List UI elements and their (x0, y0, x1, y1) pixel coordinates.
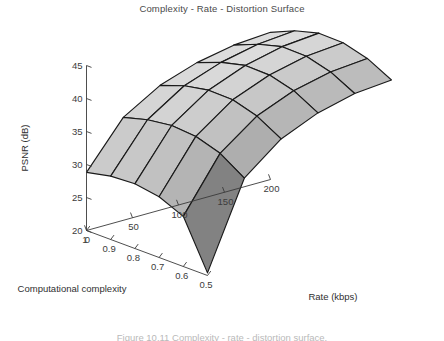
complexity-tick-mark (111, 235, 114, 239)
psnr-tick-label: 30 (72, 159, 83, 170)
psnr-axis-title: PSNR (dB) (19, 125, 30, 172)
complexity-tick-mark (159, 253, 162, 257)
complexity-tick-label: 0.5 (199, 279, 212, 290)
psnr-tick-mark (87, 99, 92, 101)
rate-tick-label: 50 (128, 221, 139, 232)
rate-tick-label: 0 (85, 234, 90, 245)
complexity-tick-label: 0.7 (151, 261, 164, 272)
surface-plot: 202530354045PSNR (dB)10.90.80.70.60.5Com… (0, 0, 444, 341)
figure-caption: Figure 10.11 Complexity - rate - distort… (0, 332, 444, 341)
rate-tick-label: 100 (172, 209, 188, 220)
rate-axis-title: Rate (kbps) (308, 291, 357, 302)
complexity-axis-title: Computational complexity (18, 283, 127, 294)
psnr-tick-mark (87, 198, 92, 200)
rate-tick-mark (269, 174, 271, 179)
complexity-tick-label: 0.9 (103, 243, 116, 254)
psnr-tick-label: 40 (72, 93, 83, 104)
figure-container: Complexity - Rate - Distortion Surface 2… (0, 0, 444, 341)
rate-tick-label: 200 (264, 183, 280, 194)
rate-tick-label: 150 (218, 196, 234, 207)
psnr-tick-label: 20 (72, 225, 83, 236)
psnr-tick-label: 45 (72, 60, 83, 71)
psnr-tick-mark (87, 132, 92, 134)
complexity-tick-label: 0.8 (127, 252, 140, 263)
complexity-tick-mark (183, 262, 186, 266)
complexity-tick-label: 0.6 (175, 270, 188, 281)
psnr-tick-mark (87, 66, 92, 68)
surface-mesh (87, 31, 392, 273)
rate-tick-mark (131, 213, 133, 218)
psnr-tick-label: 35 (72, 126, 83, 137)
psnr-tick-label: 25 (72, 192, 83, 203)
complexity-tick-mark (135, 244, 138, 248)
